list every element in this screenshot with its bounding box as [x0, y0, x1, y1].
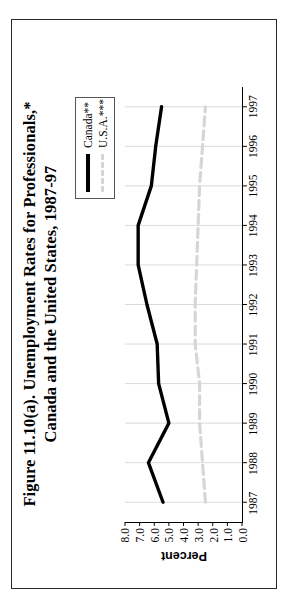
legend-swatch-usa-icon: [101, 154, 104, 192]
y-axis-tick-label: 6.0: [149, 528, 161, 542]
x-axis-tick-label: 1991: [247, 333, 259, 356]
x-axis-tick-label: 1989: [247, 412, 259, 435]
y-axis-tick-label: 8.0: [119, 528, 131, 542]
x-axis-tick-label: 1988: [247, 452, 259, 475]
legend-label-usa: U.S.A.***: [97, 99, 109, 148]
legend-swatch-canada-icon: [86, 154, 90, 192]
y-axis-tick-label: 7.0: [134, 528, 146, 542]
plot-area: [125, 87, 243, 523]
figure-title-line-1: Figure 11.10(a). Unemployment Rates for …: [20, 101, 39, 506]
x-axis-tick-label: 1987: [247, 492, 259, 515]
chart-canvas: [125, 87, 242, 522]
rotated-figure-content: Figure 11.10(a). Unemployment Rates for …: [13, 21, 275, 587]
y-axis-tick-label: 2.0: [208, 528, 220, 542]
legend-item-usa: U.S.A.***: [95, 104, 110, 192]
y-axis-tick-label: 0.0: [237, 528, 249, 542]
y-axis-tick-label: 3.0: [193, 528, 205, 542]
legend-item-canada: Canada**: [80, 104, 95, 192]
x-axis-tick-label: 1990: [247, 373, 259, 396]
x-axis-tick-label: 1994: [247, 214, 259, 237]
x-axis-tick-label: 1992: [247, 294, 259, 317]
x-axis-tick-label: 1993: [247, 254, 259, 277]
y-axis-tick-label: 5.0: [163, 528, 175, 542]
y-axis-title: Percent: [161, 549, 207, 563]
y-axis-tick-label: 4.0: [178, 528, 190, 542]
x-axis-tick-label: 1995: [247, 175, 259, 198]
figure-page: Figure 11.10(a). Unemployment Rates for …: [0, 0, 290, 607]
plot-area-wrapper: Percent 0.01.02.03.04.05.06.07.08.0 1987…: [125, 87, 243, 523]
chart-legend: Canada** U.S.A.***: [75, 97, 115, 199]
y-axis-tick-label: 1.0: [222, 528, 234, 542]
figure-title-line-2: Canada and the United States, 1987-97: [40, 21, 61, 587]
legend-label-canada: Canada**: [82, 102, 94, 148]
x-axis-tick-label: 1997: [247, 95, 259, 118]
x-axis-tick-label: 1996: [247, 135, 259, 158]
figure-title: Figure 11.10(a). Unemployment Rates for …: [19, 21, 62, 587]
figure-border: Figure 11.10(a). Unemployment Rates for …: [11, 19, 277, 589]
